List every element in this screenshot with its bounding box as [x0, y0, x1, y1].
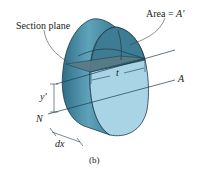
- y-prime-label: y': [39, 91, 47, 102]
- section-plane-leader: [44, 30, 68, 62]
- area-label-text: Area =: [146, 8, 176, 19]
- thickness-label: t: [116, 67, 119, 78]
- axis-n-label: N: [35, 113, 44, 124]
- dx-tick-right: [77, 138, 83, 146]
- section-plane-label: Section plane: [16, 20, 71, 31]
- dx-label: dx: [55, 138, 65, 149]
- figure-caption: (b): [89, 155, 100, 165]
- axis-a-label: A: [177, 73, 185, 84]
- area-label-symbol: A': [175, 8, 185, 19]
- dx-tick-left: [50, 128, 56, 136]
- area-label: Area = A': [146, 8, 185, 19]
- beam-segment-diagram: Section plane Area = A' t A N y' dx (b): [0, 0, 218, 177]
